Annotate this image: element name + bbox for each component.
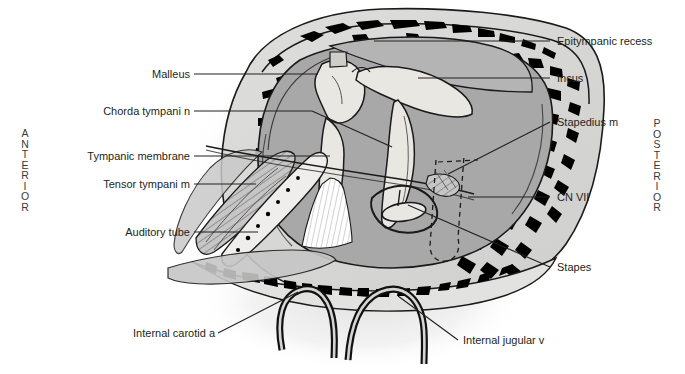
anterior-letter-0: A <box>18 128 32 139</box>
label-auditory-tube-text: Auditory tube <box>125 226 190 238</box>
label-epitympanic-recess-text: Epitympanic recess <box>557 35 652 47</box>
label-incus-text: Incus <box>557 72 583 84</box>
label-internal-jugular-v: Internal jugular v <box>463 334 544 346</box>
posterior-letter-8: R <box>650 202 664 213</box>
posterior-letter-6: I <box>650 181 664 192</box>
label-internal-carotid-a-text: Internal carotid a <box>133 327 215 339</box>
label-cn-vii: CN VII <box>557 191 589 203</box>
anterior-letter-6: O <box>18 191 32 202</box>
anterior-letter-7: R <box>18 202 32 213</box>
label-tensor-tympani-m-text: Tensor tympani m <box>103 178 190 190</box>
label-stapedius-m: Stapedius m <box>557 116 618 128</box>
anterior-letter-2: T <box>18 149 32 160</box>
posterior-letter-0: P <box>650 118 664 129</box>
label-stapes-text: Stapes <box>557 261 591 273</box>
figure-canvas: Malleus Chorda tympani n Tympanic membra… <box>0 0 685 374</box>
label-epitympanic-recess: Epitympanic recess <box>557 35 652 47</box>
label-malleus: Malleus <box>0 68 190 80</box>
label-stapes: Stapes <box>557 261 591 273</box>
label-internal-jugular-v-text: Internal jugular v <box>463 334 544 346</box>
anterior-letter-4: R <box>18 170 32 181</box>
label-stapedius-m-text: Stapedius m <box>557 116 618 128</box>
label-chorda-tympani-n-text: Chorda tympani n <box>103 105 190 117</box>
posterior-letter-4: E <box>650 160 664 171</box>
label-tympanic-membrane-text: Tympanic membrane <box>87 150 190 162</box>
label-malleus-text: Malleus <box>152 68 190 80</box>
label-internal-carotid-a: Internal carotid a <box>0 327 215 339</box>
label-cn-vii-text: CN VII <box>557 191 589 203</box>
label-auditory-tube: Auditory tube <box>0 226 190 238</box>
label-chorda-tympani-n: Chorda tympani n <box>0 105 190 117</box>
label-incus: Incus <box>557 72 583 84</box>
orientation-posterior: POSTERIOR <box>650 118 664 213</box>
orientation-anterior: ANTERIOR <box>18 128 32 212</box>
posterior-letter-2: S <box>650 139 664 150</box>
